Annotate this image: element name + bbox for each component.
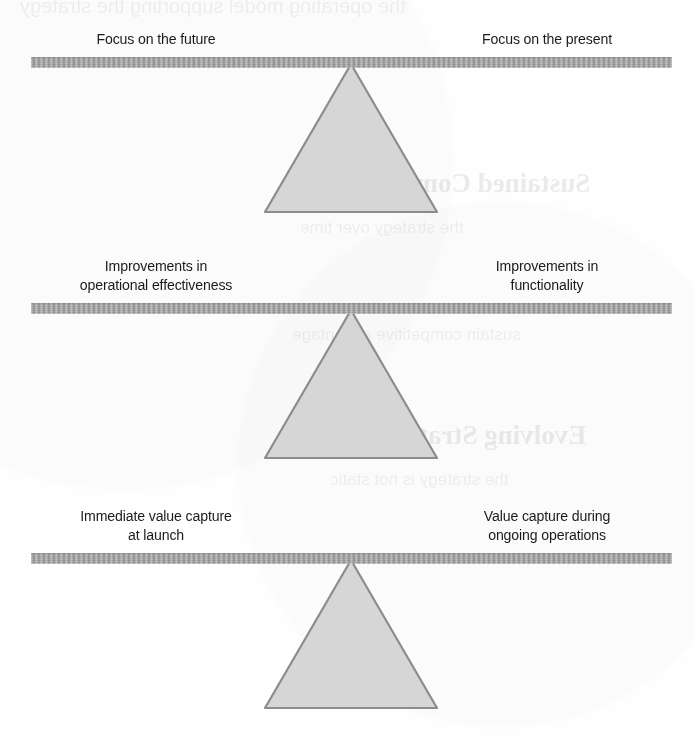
balance-1-fulcrum-triangle <box>263 62 439 214</box>
figure-page: the operating model supporting the strat… <box>0 0 695 737</box>
balance-2-right-label-line-2: functionality <box>431 275 664 294</box>
balance-2-right-label: Improvements in functionality <box>431 256 664 294</box>
balance-3-left-label-line-2: at launch <box>40 525 273 544</box>
balance-3-left-label: Immediate value capture at launch <box>40 506 273 544</box>
balance-3-beam <box>31 553 672 564</box>
balance-3-right-label: Value capture during ongoing operations <box>431 506 664 544</box>
balance-2-beam <box>31 303 672 314</box>
bleed-through-line-1: the operating model supporting the strat… <box>20 0 406 18</box>
balance-2-left-label-line-2: operational effectiveness <box>40 275 273 294</box>
balance-1-right-label: Focus on the present <box>431 29 664 48</box>
balance-1-beam <box>31 57 672 68</box>
balance-3-right-label-line-1: Value capture during <box>431 506 664 525</box>
balance-3-fulcrum-triangle <box>263 558 439 710</box>
balance-2-left-label-line-1: Improvements in <box>40 256 273 275</box>
balance-2-left-label: Improvements in operational effectivenes… <box>40 256 273 294</box>
balance-3-left-label-line-1: Immediate value capture <box>40 506 273 525</box>
bleed-through-line-3: the strategy over time <box>300 218 463 238</box>
balance-1-left-label-line-1: Focus on the future <box>40 29 273 48</box>
balance-1-right-label-line-1: Focus on the present <box>431 29 664 48</box>
balance-2-right-label-line-1: Improvements in <box>431 256 664 275</box>
bleed-through-line-6: the strategy is not static <box>330 470 509 490</box>
balance-2-fulcrum-triangle <box>263 308 439 460</box>
balance-1-left-label: Focus on the future <box>40 29 273 48</box>
balance-3-right-label-line-2: ongoing operations <box>431 525 664 544</box>
